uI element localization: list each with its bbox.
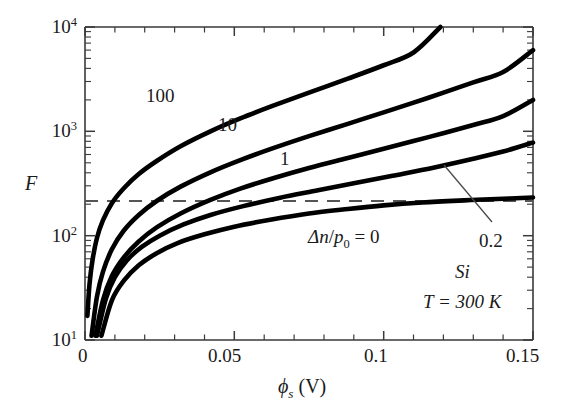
curve-label-1: 1	[280, 148, 290, 170]
curve-label-0p2: 0.2	[479, 230, 503, 252]
figure-container: 104 103 102 101 F 0 0.05 0.1 0.15 ϕs (V)…	[0, 0, 570, 417]
x-axis-title: ϕs (V)	[278, 375, 326, 398]
data-curves-group	[87, 27, 533, 336]
curve-100	[87, 27, 440, 316]
x-tick-label-005: 0.05	[208, 345, 241, 367]
leader-line-0p2	[444, 165, 492, 222]
x-tick-label-0: 0	[78, 345, 88, 367]
annotation-material-si: Si	[455, 261, 470, 283]
x-tick-label-01: 0.1	[364, 345, 388, 367]
y-tick-label-10: 101	[22, 329, 77, 351]
y-tick-label-1000: 103	[22, 120, 77, 142]
x-tick-label-015: 0.15	[506, 345, 539, 367]
y-tick-label-100: 102	[22, 225, 77, 247]
y-axis-title: F	[25, 172, 37, 195]
curve-label-10: 10	[218, 114, 237, 136]
annotation-temperature: T = 300 K	[423, 291, 501, 313]
y-tick-label-10000: 104	[22, 16, 77, 38]
curve-label-100: 100	[146, 85, 175, 107]
annotation-delta-n-over-p0: Δn/p0 = 0	[308, 226, 379, 248]
